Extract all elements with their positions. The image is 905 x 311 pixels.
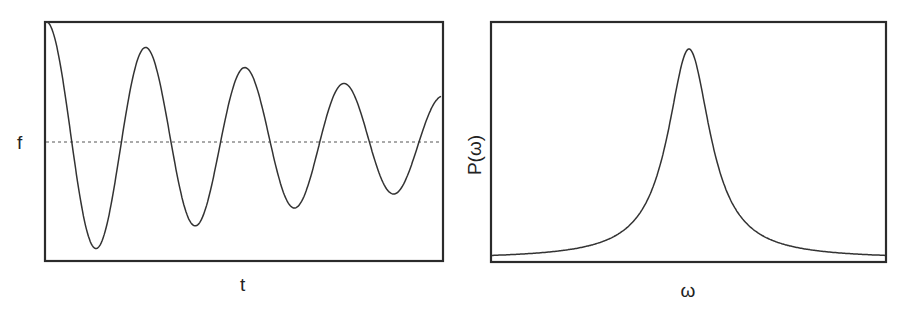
lorentzian-peak-curve (492, 49, 885, 255)
right-ylabel: P(ω) (464, 135, 485, 175)
figure: f t P(ω) ω (0, 0, 905, 311)
damped-oscillation-curve (47, 22, 441, 249)
left-xlabel: t (240, 274, 246, 295)
right-plot-frame (491, 22, 886, 262)
right-panel-power-spectrum: P(ω) ω (464, 22, 886, 301)
right-xlabel: ω (681, 280, 696, 301)
left-panel-time-series: f t (17, 22, 443, 295)
left-ylabel: f (17, 132, 23, 153)
